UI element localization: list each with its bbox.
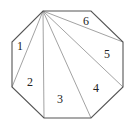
- triangle-labels: 1 2 3 4 5 6: [17, 14, 110, 106]
- triangle-label-2: 2: [27, 75, 33, 89]
- triangle-label-6: 6: [83, 14, 89, 28]
- triangle-label-1: 1: [17, 39, 23, 53]
- diagonal-2: [43, 11, 44, 118]
- octagon-svg: 1 2 3 4 5 6: [0, 0, 132, 126]
- fan-diagonals: [12, 11, 123, 118]
- octagon-outline: [12, 11, 123, 118]
- triangle-label-4: 4: [93, 81, 99, 95]
- triangle-label-3: 3: [57, 92, 63, 106]
- triangle-label-5: 5: [104, 47, 110, 61]
- octagon-triangulation-figure: 1 2 3 4 5 6: [0, 0, 132, 126]
